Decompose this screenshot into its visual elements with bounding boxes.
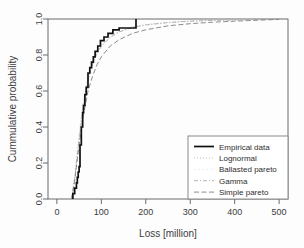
legend-label-gamma: Gamma: [219, 177, 248, 186]
x-tick-label-200: 200: [138, 207, 153, 217]
x-tick-label-300: 300: [183, 207, 198, 217]
x-tick-label-400: 400: [227, 207, 242, 217]
y-axis-title: Cummulative probability: [7, 56, 18, 163]
y-tick-label-0.6: 0.6: [34, 85, 44, 98]
cdf-plot: 01002003004005000.00.20.40.60.81.0Loss […: [0, 0, 304, 248]
y-tick-label-1.0: 1.0: [34, 13, 44, 26]
x-tick-label-0: 0: [54, 207, 59, 217]
legend-label-lognormal: Lognormal: [219, 154, 257, 163]
x-tick-label-500: 500: [272, 207, 287, 217]
y-tick-label-0.2: 0.2: [34, 157, 44, 170]
chart-container: 01002003004005000.00.20.40.60.81.0Loss […: [0, 0, 304, 248]
x-axis-title: Loss [million]: [139, 228, 197, 239]
legend-label-simple-pareto: Simple pareto: [219, 188, 269, 197]
y-tick-label-0.8: 0.8: [34, 49, 44, 62]
series-empirical-data: [72, 19, 136, 199]
x-tick-label-100: 100: [94, 207, 109, 217]
legend-label-ballasted-pareto: Ballasted pareto: [219, 165, 277, 174]
y-tick-label-0.4: 0.4: [34, 121, 44, 134]
y-tick-label-0.0: 0.0: [34, 193, 44, 206]
legend-label-empirical-data: Empirical data: [219, 143, 270, 152]
